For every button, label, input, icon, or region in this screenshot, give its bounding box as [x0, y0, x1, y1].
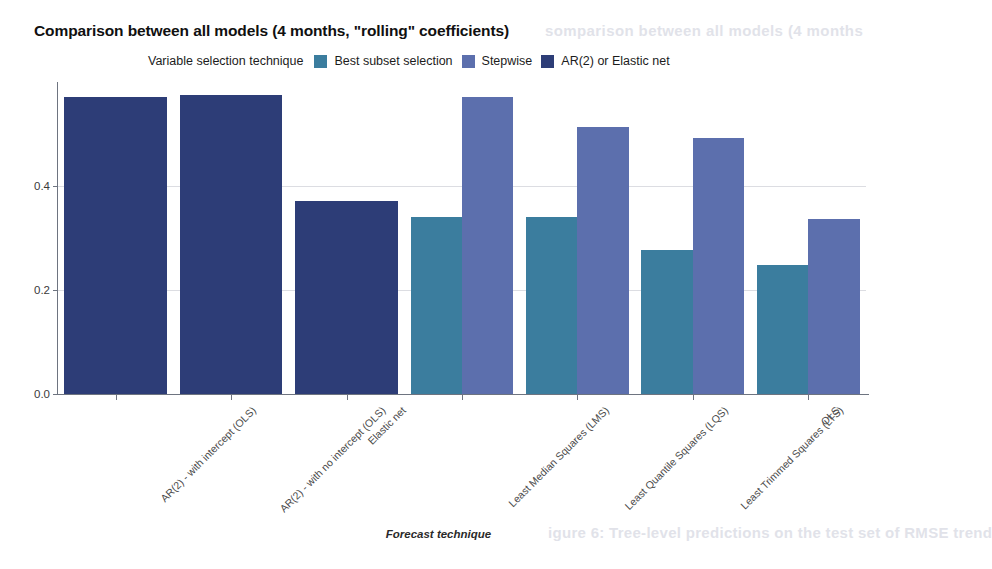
legend-title: Variable selection technique [148, 54, 303, 68]
y-tick-label: 0.4 [18, 180, 50, 192]
x-tick-label: AR(2) - with intercept (OLS) [158, 404, 258, 504]
y-tick-label: 0.2 [18, 284, 50, 296]
bar[interactable] [641, 250, 692, 394]
y-tick-mark [53, 290, 58, 291]
legend-swatch-stepwise [462, 55, 475, 68]
legend-label-ar2-or-elastic-net: AR(2) or Elastic net [561, 54, 669, 68]
x-tick-mark [808, 395, 809, 400]
bar[interactable] [526, 217, 577, 394]
x-axis-title: Forecast technique [0, 528, 877, 540]
x-tick-label: AR(2) - with no intercept (OLS) [277, 404, 387, 514]
x-tick-mark [462, 395, 463, 400]
bar[interactable] [180, 95, 283, 394]
x-tick-mark [577, 395, 578, 400]
y-tick-mark [53, 394, 58, 395]
x-tick-mark [347, 395, 348, 400]
chart-legend: Variable selection technique Best subset… [148, 54, 670, 68]
legend-item-stepwise[interactable]: Stepwise [462, 54, 533, 68]
bar[interactable] [462, 97, 513, 394]
bar[interactable] [693, 138, 744, 394]
bar[interactable] [411, 217, 462, 394]
legend-label-best-subset-selection: Best subset selection [334, 54, 452, 68]
legend-item-best-subset-selection[interactable]: Best subset selection [314, 54, 452, 68]
bar[interactable] [808, 219, 859, 394]
legend-swatch-ar2-or-elastic-net [541, 55, 554, 68]
bar[interactable] [64, 97, 167, 394]
y-tick-mark [53, 186, 58, 187]
legend-item-ar2-or-elastic-net[interactable]: AR(2) or Elastic net [541, 54, 669, 68]
y-tick-label: 0.0 [18, 388, 50, 400]
bar[interactable] [295, 201, 398, 394]
x-tick-label: Least Median Squares (LMS) [506, 404, 611, 509]
chart-title: Comparison between all models (4 months,… [34, 22, 509, 40]
x-tick-mark [231, 395, 232, 400]
x-tick-mark [116, 395, 117, 400]
x-tick-mark [693, 395, 694, 400]
bar[interactable] [577, 127, 628, 394]
legend-swatch-best-subset-selection [314, 55, 327, 68]
x-axis-line [57, 394, 869, 395]
x-tick-label: Least Quantile Squares (LQS) [623, 404, 731, 512]
bar[interactable] [757, 265, 808, 394]
plot-area [58, 82, 866, 394]
legend-label-stepwise: Stepwise [482, 54, 533, 68]
